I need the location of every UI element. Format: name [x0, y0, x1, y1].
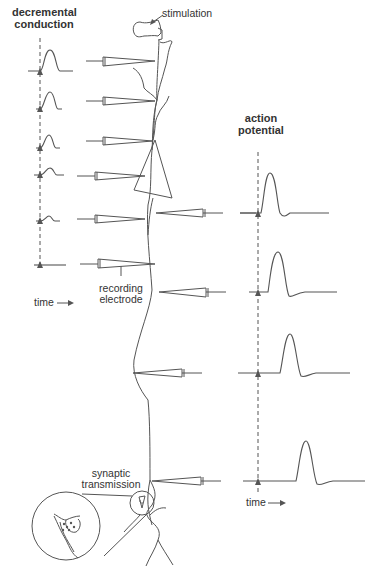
stimulation-label: stimulation — [162, 8, 212, 19]
decremental-traces — [28, 38, 74, 306]
decremental-title: decremental conduction — [12, 6, 76, 30]
stimulating-electrode — [133, 20, 161, 37]
recording-line2: electrode — [96, 294, 146, 305]
decremental-title-line1: decremental — [12, 6, 76, 18]
right-electrodes — [133, 209, 256, 485]
synaptic-line2: transmission — [78, 479, 144, 490]
action-title-line2: potential — [236, 124, 286, 136]
action-potential-traces — [238, 152, 365, 506]
left-electrodes — [77, 57, 155, 276]
decremental-title-line2: conduction — [12, 18, 76, 30]
recording-electrode-label: recording electrode — [96, 283, 146, 305]
action-title-line1: action — [236, 112, 286, 124]
cell-body — [134, 140, 172, 198]
synaptic-transmission-label: synaptic transmission — [78, 468, 144, 490]
action-potential-title: action potential — [236, 112, 286, 136]
neuron — [133, 20, 172, 525]
neuron-diagram — [0, 0, 382, 586]
time-label-right: time — [246, 497, 266, 508]
time-label-left: time — [34, 297, 54, 308]
